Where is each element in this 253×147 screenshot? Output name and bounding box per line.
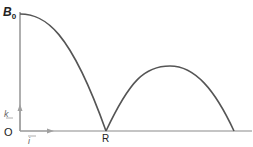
i-vector-label: i bbox=[28, 137, 30, 146]
b0-subscript: 0 bbox=[12, 12, 16, 21]
origin-label: O bbox=[4, 127, 13, 138]
diagram-svg bbox=[0, 0, 253, 147]
r-label: R bbox=[102, 134, 109, 144]
b0-main: B bbox=[3, 5, 12, 19]
k-vector-label: k bbox=[4, 110, 9, 119]
b0-label: B0 bbox=[3, 6, 16, 21]
k-arrow-icon bbox=[18, 104, 23, 111]
diagram: B0 O R k i bbox=[0, 0, 253, 147]
curve-first-lobe bbox=[20, 14, 106, 131]
curve-second-arch bbox=[106, 66, 234, 131]
i-arrow-icon bbox=[47, 129, 54, 134]
